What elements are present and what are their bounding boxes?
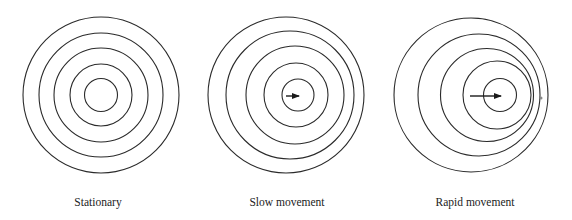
slow-movement-panel [208,17,364,173]
rapid-movement-panel [394,18,548,172]
wavefront-circle-5 [484,79,517,112]
stationary-panel [23,17,179,173]
wavefront-circle-1 [394,18,548,172]
wavefront-circle-4 [264,63,328,127]
rapid-movement-label: Rapid movement [436,196,515,208]
wavefront-circle-5 [85,79,118,112]
slow-movement-label: Slow movement [249,196,324,208]
wavefront-circle-4 [70,64,132,126]
wavefront-circle-5 [282,79,314,111]
doppler-wavefront-diagram [0,0,572,220]
wavefront-circle-1 [208,17,364,173]
wavefront-circle-2 [226,31,354,159]
wavefront-circle-3 [54,48,148,142]
wavefront-circle-1 [23,17,179,173]
wavefront-circle-2 [418,34,540,156]
wavefront-circle-2 [39,33,163,157]
stationary-label: Stationary [74,196,121,208]
wavefront-circle-4 [463,61,531,129]
wavefront-circle-3 [246,46,344,144]
scan-speck [540,97,543,100]
